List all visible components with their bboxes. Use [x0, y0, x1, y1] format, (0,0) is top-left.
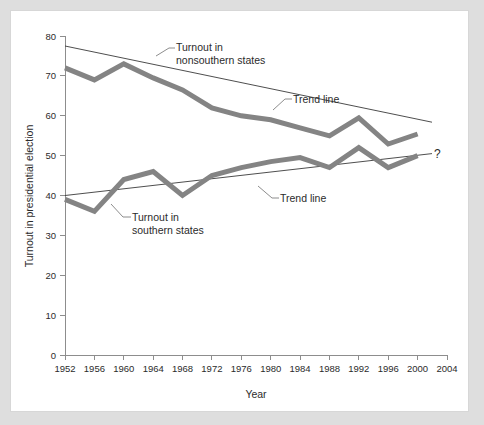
annotation-nonsouthern-line1: Turnout in: [176, 41, 223, 53]
annotation-southern-line2: southern states: [132, 224, 204, 236]
annotation-southern-line1: Turnout in: [132, 211, 179, 223]
x-tick-1980: 1980: [260, 363, 281, 374]
y-tick-0: 0: [51, 350, 56, 361]
leader-line-trend-top: [273, 99, 292, 110]
leader-line-trend-bottom: [258, 186, 279, 198]
x-tick-1976: 1976: [231, 363, 252, 374]
x-axis-tick-labels: 1952 1956 1960 1964 1968 1972 1976 1980 …: [54, 363, 457, 374]
x-tick-1992: 1992: [348, 363, 369, 374]
y-axis-tick-labels: 80 70 60 50 40 30 20 10 0: [45, 31, 56, 361]
series-line-nonsouthern: [65, 64, 418, 144]
y-tick-60: 60: [45, 110, 56, 121]
y-tick-40: 40: [45, 190, 56, 201]
x-tick-2004: 2004: [436, 363, 457, 374]
x-tick-1972: 1972: [201, 363, 222, 374]
y-tick-50: 50: [45, 150, 56, 161]
annotation-question-mark: ?: [434, 147, 441, 161]
annotation-nonsouthern-line2: nonsouthern states: [176, 54, 265, 66]
y-tick-20: 20: [45, 270, 56, 281]
series-line-southern: [65, 148, 418, 212]
chart-panel: 80 70 60 50 40 30 20 10 0: [11, 11, 468, 411]
x-tick-1952: 1952: [54, 363, 75, 374]
y-tick-10: 10: [45, 310, 56, 321]
x-tick-1960: 1960: [113, 363, 134, 374]
y-tick-30: 30: [45, 230, 56, 241]
x-tick-1984: 1984: [290, 363, 311, 374]
x-tick-2000: 2000: [407, 363, 428, 374]
y-tick-70: 70: [45, 70, 56, 81]
y-axis-title: Turnout in presidential election: [23, 125, 35, 268]
annotation-trend-line-top: Trend line: [293, 93, 339, 105]
x-axis-title: Year: [245, 388, 267, 400]
x-axis-ticks: [65, 355, 447, 360]
y-axis-ticks: [60, 36, 65, 355]
x-tick-1988: 1988: [319, 363, 340, 374]
y-tick-80: 80: [45, 31, 56, 42]
annotation-trend-line-bottom: Trend line: [280, 192, 326, 204]
leader-line-southern: [111, 204, 131, 217]
x-tick-1968: 1968: [172, 363, 193, 374]
x-tick-1956: 1956: [84, 363, 105, 374]
turnout-line-chart: 80 70 60 50 40 30 20 10 0: [11, 11, 468, 411]
leader-line-nonsouthern: [156, 48, 175, 56]
x-tick-1964: 1964: [143, 363, 164, 374]
x-tick-1996: 1996: [378, 363, 399, 374]
